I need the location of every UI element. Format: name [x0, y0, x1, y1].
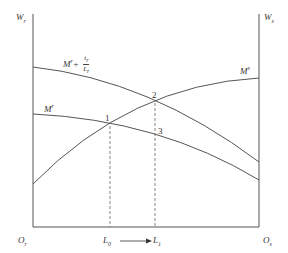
right-origin-label: Os: [263, 236, 272, 247]
x-marker-l0: L0: [103, 236, 111, 247]
curve-label-m-prime-plus: Mr+ tr Lr: [63, 54, 89, 76]
curve-label-m-prime: Mr: [44, 103, 54, 114]
curve-label-m-star: Ms: [240, 65, 250, 76]
point-label-3: 3: [158, 127, 163, 136]
arrowhead-icon: [146, 239, 152, 244]
right-axis-label: Ws: [264, 13, 274, 24]
curve-m-prime: [33, 114, 259, 180]
x-marker-l1: L1: [153, 236, 161, 247]
diagram-canvas: [0, 0, 288, 253]
left-origin-label: Or: [18, 236, 27, 247]
left-axis-label: Wr: [16, 13, 26, 24]
point-label-1: 1: [105, 114, 110, 123]
fraction-t-over-l: tr Lr: [83, 54, 89, 76]
point-label-2: 2: [152, 91, 157, 100]
